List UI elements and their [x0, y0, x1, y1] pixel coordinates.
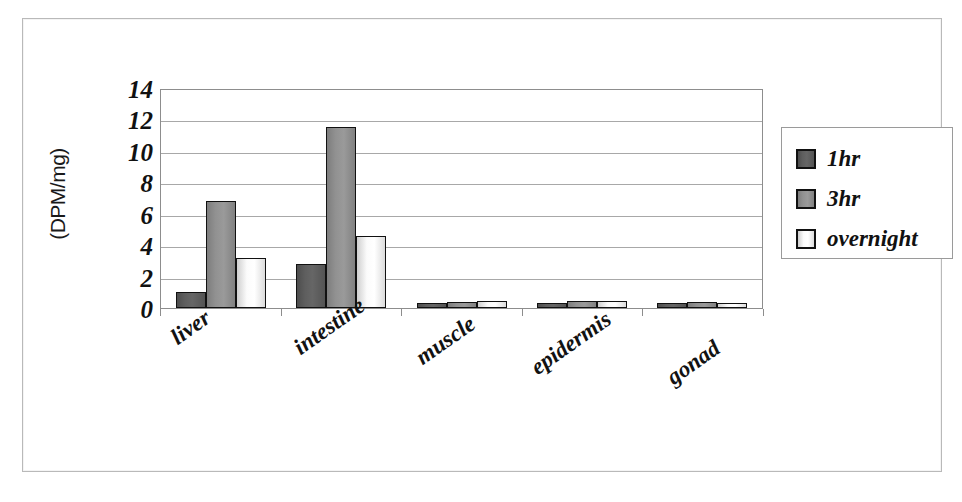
- bar: [477, 301, 507, 308]
- bar-group: [642, 90, 762, 308]
- bar: [356, 236, 386, 308]
- bar: [537, 303, 567, 308]
- y-tick-label: 6: [141, 202, 154, 227]
- y-tick-label: 8: [141, 171, 154, 196]
- legend-label: overnight: [827, 226, 918, 252]
- bar: [657, 303, 687, 308]
- x-category-label: epidermis: [526, 306, 616, 380]
- bar: [717, 303, 747, 309]
- y-axis-tick-labels: 14121086420: [107, 71, 153, 329]
- legend-entry: overnight: [796, 219, 952, 259]
- bar: [417, 303, 447, 308]
- legend-swatch: [796, 189, 816, 209]
- x-axis-category-labels: liverintestinemuscleepidermisgonad: [160, 311, 763, 421]
- legend-box: 1hr3hrovernight: [781, 127, 953, 259]
- legend-label: 1hr: [827, 146, 860, 172]
- bar: [236, 258, 266, 308]
- y-tick-label: 2: [141, 265, 154, 290]
- bar: [206, 201, 236, 308]
- legend-entry: 3hr: [796, 179, 952, 219]
- bar-group: [401, 90, 521, 308]
- figure-frame: (DPM/mg) 14121086420 liverintestinemuscl…: [22, 18, 942, 472]
- chart-figure: (DPM/mg) 14121086420 liverintestinemuscl…: [0, 0, 962, 502]
- bar: [567, 301, 597, 308]
- legend-swatch: [796, 149, 816, 169]
- bar: [447, 302, 477, 308]
- x-category-label: gonad: [662, 335, 725, 390]
- y-tick-label: 4: [141, 234, 154, 259]
- x-category-label: muscle: [411, 311, 480, 370]
- y-axis-title: (DPM/mg): [46, 148, 70, 240]
- y-tick-label: 0: [141, 297, 154, 322]
- x-category-label: liver: [166, 305, 215, 350]
- y-tick-label: 14: [128, 77, 153, 102]
- y-tick-label: 10: [128, 139, 153, 164]
- bar-group: [161, 90, 281, 308]
- bar-group: [281, 90, 401, 308]
- legend-swatch: [796, 229, 816, 249]
- y-tick-label: 12: [128, 108, 153, 133]
- x-tick: [763, 309, 764, 316]
- bar-group: [522, 90, 642, 308]
- bar-groups: [161, 90, 762, 308]
- legend-label: 3hr: [827, 186, 860, 212]
- legend-entry: 1hr: [796, 139, 952, 179]
- bar: [687, 302, 717, 308]
- bar: [296, 264, 326, 308]
- plot-area: [160, 89, 763, 309]
- bar: [326, 127, 356, 308]
